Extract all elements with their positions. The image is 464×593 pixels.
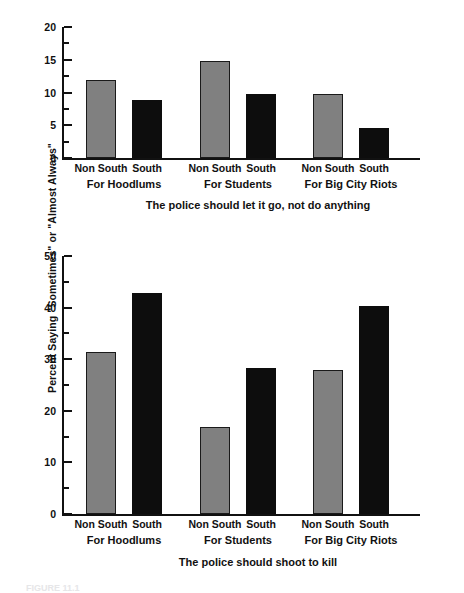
bar — [313, 94, 343, 158]
y-tick-label: 20 — [20, 21, 56, 33]
figure-caption: FIGURE 11.1 — [26, 583, 80, 593]
x-group-label: For Big City Riots — [305, 178, 398, 190]
x-group-label: For Big City Riots — [305, 534, 398, 546]
y-tick-label: 10 — [20, 87, 56, 99]
chart-panel-shoot-to-kill: 01020304050Non SouthSouthFor HoodlumsNon… — [0, 230, 464, 580]
y-tick-label: 15 — [20, 54, 56, 66]
y-axis-line — [62, 256, 64, 516]
bar — [246, 368, 276, 514]
x-category-label: Non South — [74, 518, 127, 530]
y-tick-major — [64, 255, 72, 257]
y-tick-minor — [64, 75, 69, 77]
y-tick-major — [64, 92, 72, 94]
x-group-label: For Hoodlums — [87, 534, 162, 546]
x-category-label: Non South — [188, 518, 241, 530]
chart-panel-let-it-go: 05101520Non SouthSouthFor HoodlumsNon So… — [0, 0, 464, 230]
panel-caption: The police should shoot to kill — [179, 556, 337, 568]
y-tick-major — [64, 59, 72, 61]
x-category-label: Non South — [188, 162, 241, 174]
panel-caption: The police should let it go, not do anyt… — [146, 199, 370, 211]
bar — [200, 61, 230, 158]
x-group-label: For Students — [204, 178, 272, 190]
y-tick-major — [64, 124, 72, 126]
x-category-label: Non South — [74, 162, 127, 174]
x-category-label: Non South — [301, 162, 354, 174]
bar — [313, 370, 343, 514]
y-tick-minor — [64, 436, 69, 438]
y-tick-major — [64, 410, 72, 412]
y-tick-major — [64, 157, 72, 159]
bar — [86, 352, 116, 514]
y-tick-label: 50 — [20, 250, 56, 262]
x-category-label: South — [132, 162, 162, 174]
y-tick-label: 20 — [20, 405, 56, 417]
y-tick-major — [64, 307, 72, 309]
x-category-label: South — [246, 162, 276, 174]
y-tick-label: 10 — [20, 456, 56, 468]
y-tick-minor — [64, 487, 69, 489]
figure-bar-charts: Percent Saying "Sometimes" or "Almost Al… — [0, 0, 464, 593]
y-tick-minor — [64, 281, 69, 283]
plot-area-top: 05101520Non SouthSouthFor HoodlumsNon So… — [0, 0, 464, 230]
bar — [132, 100, 162, 158]
x-axis-line — [62, 514, 420, 516]
y-tick-label: 5 — [20, 119, 56, 131]
y-tick-label: 30 — [20, 353, 56, 365]
y-tick-label: 0 — [20, 508, 56, 520]
x-group-label: For Hoodlums — [87, 178, 162, 190]
x-category-label: South — [246, 518, 276, 530]
y-tick-minor — [64, 332, 69, 334]
bar — [86, 80, 116, 158]
bar — [132, 293, 162, 514]
y-tick-minor — [64, 42, 69, 44]
x-category-label: South — [132, 518, 162, 530]
y-tick-major — [64, 461, 72, 463]
y-tick-minor — [64, 141, 69, 143]
x-category-label: South — [359, 518, 389, 530]
y-tick-minor — [64, 108, 69, 110]
bar — [359, 128, 389, 158]
x-axis-line — [62, 158, 420, 160]
y-tick-major — [64, 513, 72, 515]
y-tick-minor — [64, 384, 69, 386]
plot-area-bottom: 01020304050Non SouthSouthFor HoodlumsNon… — [0, 230, 464, 580]
bar — [246, 94, 276, 158]
y-tick-label: 40 — [20, 302, 56, 314]
bar — [200, 427, 230, 514]
y-tick-major — [64, 26, 72, 28]
x-category-label: South — [359, 162, 389, 174]
x-group-label: For Students — [204, 534, 272, 546]
y-tick-label: 0 — [20, 152, 56, 164]
x-category-label: Non South — [301, 518, 354, 530]
y-tick-major — [64, 358, 72, 360]
bar — [359, 306, 389, 514]
